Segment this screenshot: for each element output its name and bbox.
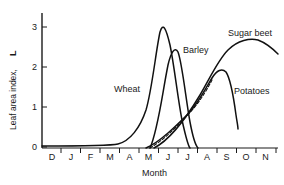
month-label: J xyxy=(185,152,190,162)
y-tick-label: 3 xyxy=(32,22,37,32)
month-label: M xyxy=(106,152,114,162)
y-tick-label: 1 xyxy=(32,102,37,112)
potatoes-label: Potatoes xyxy=(234,86,270,96)
leaf-area-index-chart: 0 1 2 3 Leaf area index, L D xyxy=(0,0,284,185)
month-label: M xyxy=(145,152,153,162)
month-label: S xyxy=(223,152,229,162)
y-tick-labels: 0 1 2 3 xyxy=(32,22,37,152)
x-axis-label: Month xyxy=(142,168,167,178)
month-label: F xyxy=(88,152,94,162)
y-ticks xyxy=(42,27,47,147)
y-tick-label: 0 xyxy=(32,142,37,152)
barley-label: Barley xyxy=(183,45,209,55)
month-label: J xyxy=(69,152,74,162)
month-label: A xyxy=(126,152,132,162)
x-tick-labels: D J F M A M J J A S O N xyxy=(49,152,269,162)
y-axis-label: Leaf area index, L xyxy=(8,50,18,130)
month-label: N xyxy=(262,152,269,162)
sugar-beet-label: Sugar beet xyxy=(228,28,273,38)
month-label: J xyxy=(166,152,171,162)
series-labels: Wheat Barley Sugar beet Potatoes xyxy=(114,28,273,96)
month-label: A xyxy=(204,152,210,162)
svg-text:L: L xyxy=(8,50,18,56)
month-label: O xyxy=(242,152,249,162)
y-tick-label: 2 xyxy=(32,62,37,72)
wheat-label: Wheat xyxy=(114,84,141,94)
month-label: D xyxy=(49,152,56,162)
svg-text:Leaf area index,: Leaf area index, xyxy=(8,69,18,130)
